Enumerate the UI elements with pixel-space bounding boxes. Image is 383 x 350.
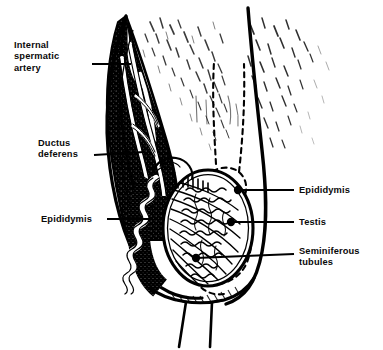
label-internal-spermatic-artery: Internal spermatic artery [14,40,59,74]
label-epididymis-right: Epididymis [299,185,350,196]
label-seminiferous-tubules: Seminiferous tubules [299,246,360,269]
leader-dot-epididymis-right [235,187,241,193]
label-epididymis-left: Epididymis [41,214,92,225]
label-testis: Testis [299,217,326,228]
leader-dot-seminiferous-tubules [193,255,199,261]
label-ductus-deferens: Ductus deferens [38,138,78,161]
leader-dot-testis [228,219,234,225]
